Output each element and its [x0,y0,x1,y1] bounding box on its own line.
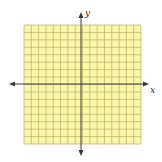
x-axis-left-arrow-icon [9,82,15,87]
x-axis-right-arrow-icon [143,82,149,87]
y-axis-down-arrow-icon [79,150,84,156]
y-axis-up-arrow-icon [79,12,84,18]
y-axis-label: y [84,8,91,18]
x-axis-label: x [150,85,155,95]
coordinate-plane: x y [0,0,162,162]
